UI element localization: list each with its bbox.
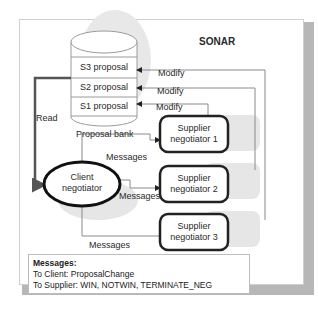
supplier1-line1: Supplier xyxy=(160,123,228,134)
bank-slot-s1: S1 proposal xyxy=(80,101,128,111)
client-label-line2: negotiator xyxy=(52,183,112,194)
supplier-negotiator-3-label: Supplier negotiator 3 xyxy=(160,221,228,243)
supplier3-line2: negotiator 3 xyxy=(160,232,228,243)
modify-label-s3: Modify xyxy=(158,68,185,78)
bank-slot-s3: S3 proposal xyxy=(80,62,128,72)
client-negotiator-label: Client negotiator xyxy=(52,172,112,194)
messages-label-supplier2: Messages xyxy=(119,191,160,201)
legend-line-client: To Client: ProposalChange xyxy=(33,269,245,280)
supplier2-line2: negotiator 2 xyxy=(160,184,228,195)
proposal-bank-label: Proposal bank xyxy=(76,129,134,139)
proposal-bank-cylinder[interactable] xyxy=(71,31,137,126)
supplier-negotiator-2-label: Supplier negotiator 2 xyxy=(160,173,228,195)
client-label-line1: Client xyxy=(52,172,112,183)
supplier1-line2: negotiator 1 xyxy=(160,134,228,145)
read-label: Read xyxy=(36,113,58,123)
legend-line-supplier: To Supplier: WIN, NOTWIN, TERMINATE_NEG xyxy=(33,280,245,291)
supplier2-line1: Supplier xyxy=(160,173,228,184)
supplier-negotiator-1-label: Supplier negotiator 1 xyxy=(160,123,228,145)
modify-label-s2: Modify xyxy=(157,86,184,96)
supplier3-line1: Supplier xyxy=(160,221,228,232)
modify-label-s1: Modify xyxy=(156,102,183,112)
messages-label-supplier3: Messages xyxy=(89,240,130,250)
messages-label-supplier1: Messages xyxy=(106,152,147,162)
bank-slot-s2: S2 proposal xyxy=(80,82,128,92)
legend-title: Messages: xyxy=(33,258,245,269)
messages-legend: Messages: To Client: ProposalChange To S… xyxy=(28,254,250,294)
diagram-title: SONAR xyxy=(199,36,235,47)
